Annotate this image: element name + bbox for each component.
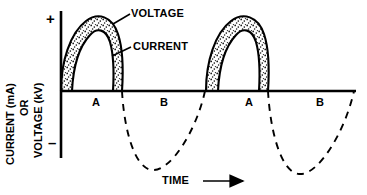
- region-label-b-2: B: [316, 96, 324, 108]
- shaded-lobe-1: [61, 16, 123, 91]
- y-axis-label-line-3: CURRENT (mA): [4, 83, 16, 165]
- voltage-series-label: VOLTAGE: [131, 7, 184, 19]
- y-axis-label: VOLTAGE (kV) OR CURRENT (mA): [0, 30, 58, 160]
- region-label-b-1: B: [160, 96, 168, 108]
- voltage-leader-line: [113, 14, 130, 24]
- y-axis-label-line-2: OR: [18, 100, 30, 117]
- y-axis-label-line-1: VOLTAGE (kV): [32, 83, 44, 158]
- shaded-lobe-2: [206, 16, 269, 91]
- y-axis-plus-sign: +: [46, 10, 55, 27]
- region-label-a-2: A: [245, 96, 253, 108]
- dashed-negative-halfcycle-2: [268, 91, 354, 174]
- region-label-a-1: A: [92, 96, 100, 108]
- current-series-label: CURRENT: [133, 40, 188, 52]
- x-axis-label: TIME: [162, 174, 189, 186]
- waveform-figure: + – VOLTAGE (kV) OR CURRENT (mA) VOLTAGE…: [0, 0, 367, 195]
